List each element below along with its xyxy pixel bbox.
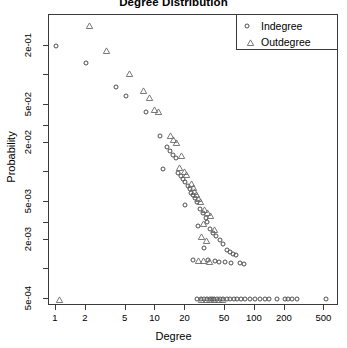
data-point-indegree bbox=[205, 296, 210, 301]
data-point-outdegree bbox=[152, 109, 158, 114]
data-point-outdegree bbox=[164, 132, 170, 137]
x-tick-mark bbox=[224, 305, 225, 310]
data-point-indegree bbox=[229, 260, 234, 265]
legend-label: Outdegree bbox=[261, 34, 311, 50]
data-point-indegree bbox=[242, 296, 247, 301]
data-point-indegree bbox=[143, 109, 148, 114]
data-point-outdegree bbox=[195, 296, 201, 301]
data-point-outdegree bbox=[198, 207, 204, 212]
data-point-outdegree bbox=[173, 165, 179, 170]
data-point-indegree bbox=[217, 259, 222, 264]
data-point-outdegree bbox=[190, 191, 196, 196]
legend: IndegreeOutdegree bbox=[236, 14, 338, 50]
data-point-indegree bbox=[185, 184, 190, 189]
data-point-indegree bbox=[194, 296, 199, 301]
x-tick-label: 1 bbox=[52, 312, 57, 323]
data-point-indegree bbox=[215, 296, 220, 301]
data-point-outdegree bbox=[100, 47, 106, 52]
data-point-indegree bbox=[200, 211, 205, 216]
data-point-indegree bbox=[212, 296, 217, 301]
data-point-indegree bbox=[83, 60, 88, 65]
plot-panel bbox=[48, 14, 338, 305]
data-point-indegree bbox=[205, 219, 210, 224]
data-point-outdegree bbox=[170, 140, 176, 145]
data-point-indegree bbox=[181, 176, 186, 181]
data-point-indegree bbox=[113, 85, 118, 90]
data-point-indegree bbox=[234, 296, 239, 301]
data-point-indegree bbox=[227, 249, 232, 254]
data-point-indegree bbox=[183, 180, 188, 185]
data-point-indegree bbox=[168, 148, 173, 153]
x-tick-mark bbox=[85, 305, 86, 310]
data-point-outdegree bbox=[208, 227, 214, 232]
data-point-indegree bbox=[262, 296, 267, 301]
data-point-indegree bbox=[221, 296, 226, 301]
data-point-indegree bbox=[274, 296, 279, 301]
data-point-indegree bbox=[187, 186, 192, 191]
y-tick-label: 5e-03 bbox=[22, 188, 33, 212]
legend-label: Indegree bbox=[261, 18, 302, 34]
x-tick-label: 2 bbox=[82, 312, 87, 323]
data-point-outdegree bbox=[197, 221, 203, 226]
data-point-outdegree bbox=[185, 181, 191, 186]
data-point-indegree bbox=[183, 203, 188, 208]
data-point-indegree bbox=[257, 296, 262, 301]
data-point-indegree bbox=[196, 224, 201, 229]
data-point-outdegree bbox=[212, 296, 218, 301]
data-point-indegree bbox=[234, 253, 239, 258]
data-point-indegree bbox=[242, 261, 247, 266]
data-point-indegree bbox=[178, 173, 183, 178]
data-point-outdegree bbox=[208, 296, 214, 301]
data-point-indegree bbox=[213, 259, 218, 264]
x-tick-mark bbox=[323, 305, 324, 310]
x-tick-label: 200 bbox=[276, 312, 292, 323]
data-point-indegree bbox=[164, 144, 169, 149]
data-point-indegree bbox=[267, 296, 272, 301]
data-point-outdegree bbox=[197, 258, 203, 263]
data-point-indegree bbox=[224, 248, 229, 253]
data-point-indegree bbox=[199, 296, 204, 301]
data-point-indegree bbox=[176, 170, 181, 175]
data-point-outdegree bbox=[137, 87, 143, 92]
data-point-indegree bbox=[324, 296, 329, 301]
data-point-indegree bbox=[214, 234, 219, 239]
x-tick-label: 20 bbox=[179, 312, 190, 323]
data-point-outdegree bbox=[192, 257, 198, 262]
data-point-outdegree bbox=[83, 23, 89, 28]
degree-distribution-chart: Degree Distribution Probability Degree 1… bbox=[0, 0, 347, 348]
data-point-indegree bbox=[211, 230, 216, 235]
x-tick-label: 100 bbox=[246, 312, 262, 323]
triangle-icon bbox=[244, 40, 250, 45]
data-point-indegree bbox=[248, 296, 253, 301]
data-point-indegree bbox=[197, 207, 202, 212]
circle-icon bbox=[245, 24, 250, 29]
data-point-indegree bbox=[203, 215, 208, 220]
data-point-indegree bbox=[286, 296, 291, 301]
x-tick-label: 50 bbox=[219, 312, 230, 323]
data-point-outdegree bbox=[123, 71, 129, 76]
data-point-outdegree bbox=[188, 188, 194, 193]
data-point-indegree bbox=[207, 296, 212, 301]
data-point-indegree bbox=[252, 296, 257, 301]
legend-item-outdegree: Outdegree bbox=[237, 34, 339, 50]
data-point-indegree bbox=[206, 258, 211, 263]
data-point-outdegree bbox=[203, 259, 209, 264]
data-point-outdegree bbox=[178, 168, 184, 173]
x-tick-label: 5 bbox=[122, 312, 127, 323]
x-tick-label: 500 bbox=[316, 312, 332, 323]
y-axis-label: Probability bbox=[5, 92, 17, 222]
y-tick-label: 2e-03 bbox=[22, 227, 33, 251]
data-point-outdegree bbox=[216, 296, 222, 301]
data-point-indegree bbox=[157, 134, 162, 139]
x-tick-mark bbox=[154, 305, 155, 310]
data-point-indegree bbox=[238, 296, 243, 301]
data-point-indegree bbox=[193, 196, 198, 201]
page-title: Degree Distribution bbox=[0, 0, 347, 8]
data-point-indegree bbox=[218, 238, 223, 243]
data-point-outdegree bbox=[53, 296, 59, 301]
data-point-indegree bbox=[54, 44, 59, 49]
data-point-indegree bbox=[295, 296, 300, 301]
x-tick-mark bbox=[254, 305, 255, 310]
data-point-indegree bbox=[230, 251, 235, 256]
data-point-indegree bbox=[202, 296, 207, 301]
